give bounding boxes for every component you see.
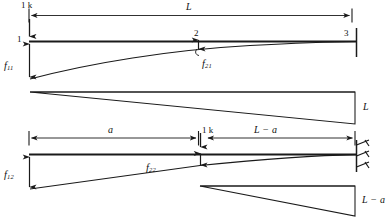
lower-moment-diagram-label: L − a [362, 195, 385, 205]
upper-unit-load-label: 1 k [21, 1, 32, 10]
upper-node-2-label: 2 [194, 29, 199, 38]
upper-deflected-shape [30, 42, 357, 80]
lower-deflected-shape [30, 155, 357, 189]
upper-f11-subscript: 11 [7, 64, 14, 71]
upper-span-label: L [186, 2, 192, 12]
upper-f21-subscript: 21 [205, 62, 212, 69]
upper-node-1-label: 1 [17, 35, 22, 44]
lower-dim-L-minus-a-label: L − a [254, 125, 277, 135]
lower-right-fixed-support [357, 140, 370, 172]
upper-moment-diagram-label: L [363, 102, 369, 112]
figure-canvas: 1 k L 1 2 3 f11 f21 L a 1 k L − a f12 f2… [0, 0, 389, 223]
upper-f21-label: f21 [202, 54, 212, 70]
lower-span-dimensions [29, 131, 355, 146]
lower-f12-subscript: 12 [7, 173, 14, 180]
lower-moment-diagram [200, 186, 355, 216]
lower-f22-label: f22 [146, 158, 156, 174]
lower-f12-label: f12 [4, 165, 14, 181]
upper-moment-diagram [30, 92, 355, 124]
lower-f22-subscript: 22 [149, 166, 156, 173]
lower-dim-a-label: a [108, 125, 113, 135]
lower-unit-load-label: 1 k [202, 126, 213, 135]
upper-f11-label: f11 [4, 56, 14, 72]
upper-node-3-label: 3 [344, 29, 349, 38]
